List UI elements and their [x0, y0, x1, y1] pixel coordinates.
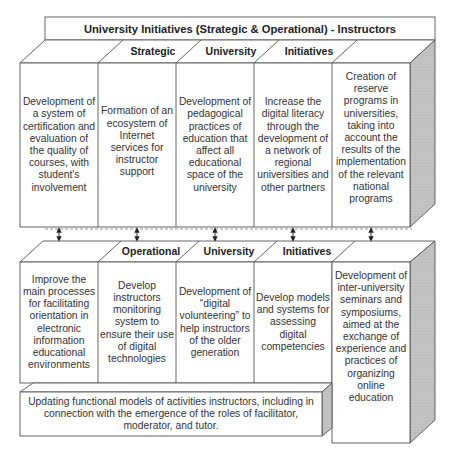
- strategic-item: Formation of an ecosystem of Internet se…: [98, 63, 176, 227]
- header-initiatives-top: Initiatives: [270, 45, 348, 57]
- connector-arrows: [59, 230, 371, 239]
- strategic-item: Development of pedagogical practices of …: [176, 63, 254, 227]
- header-university-top: University: [192, 45, 270, 57]
- operational-item: Development of “digital volunteering” to…: [176, 262, 254, 383]
- top-side-shade: [410, 40, 435, 227]
- strategic-item: Increase the digital literacy through th…: [254, 63, 332, 227]
- header-university-bottom: University: [190, 245, 268, 257]
- header-strategic: Strategic: [114, 45, 192, 57]
- bottom-side-shade: [410, 241, 435, 443]
- header-operational: Operational: [112, 245, 190, 257]
- footer-side: [322, 383, 332, 436]
- operational-item: Develop models and systems for assessing…: [254, 262, 332, 383]
- strategic-item: Development of a system of certification…: [20, 63, 98, 227]
- operational-item: Develop instructors monitoring system to…: [98, 262, 176, 383]
- footer-top: [20, 383, 332, 392]
- header-initiatives-bottom: Initiatives: [268, 245, 346, 257]
- operational-item: Development of inter-university seminars…: [332, 262, 410, 443]
- strategic-item: Creation of reserve programs in universi…: [332, 63, 410, 227]
- operational-item: Improve the main processes for facilitat…: [20, 262, 98, 383]
- footer-item: Updating functional models of activities…: [20, 392, 322, 436]
- diagram-title: University Initiatives (Strategic & Oper…: [45, 17, 435, 40]
